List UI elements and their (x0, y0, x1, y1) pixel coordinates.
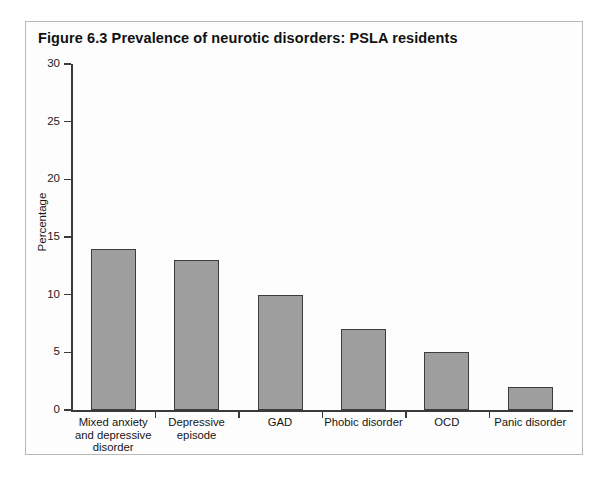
y-tick-5 (64, 352, 71, 354)
x-category-label-4: OCD (405, 416, 488, 429)
y-tick-15 (64, 236, 71, 238)
x-category-label-0: Mixed anxiety and depressive disorder (72, 416, 155, 454)
y-tick-20 (64, 179, 71, 181)
y-tick-label-25: 25 (36, 115, 60, 127)
y-tick-25 (64, 121, 71, 123)
bar-1 (174, 260, 219, 410)
bar-4 (424, 352, 469, 410)
y-tick-label-20: 20 (36, 172, 60, 184)
y-tick-label-30: 30 (36, 57, 60, 69)
y-axis-title: Percentage (36, 172, 48, 272)
y-tick-label-15: 15 (36, 230, 60, 242)
bar-2 (258, 295, 303, 410)
x-category-label-2: GAD (238, 416, 321, 429)
bar-5 (508, 387, 553, 410)
x-category-label-5: Panic disorder (489, 416, 572, 429)
y-tick-label-10: 10 (36, 288, 60, 300)
y-tick-0 (64, 409, 71, 411)
figure-root: Figure 6.3 Prevalence of neurotic disord… (0, 0, 609, 479)
x-category-label-3: Phobic disorder (322, 416, 405, 429)
page-title: Figure 6.3 Prevalence of neurotic disord… (38, 30, 458, 46)
x-category-label-1: Depressive episode (155, 416, 238, 441)
y-axis-line (71, 64, 73, 411)
bar-0 (91, 249, 136, 410)
y-tick-label-0: 0 (36, 403, 60, 415)
y-tick-10 (64, 294, 71, 296)
bar-3 (341, 329, 386, 410)
y-tick-label-5: 5 (36, 345, 60, 357)
y-tick-30 (64, 63, 71, 65)
